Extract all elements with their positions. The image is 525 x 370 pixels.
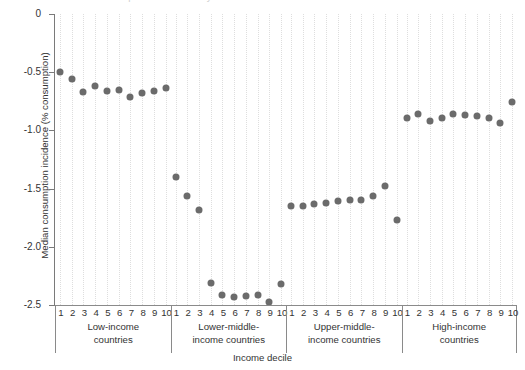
y-tick-label: -1.0 [0,124,41,135]
y-tick-mark [49,72,55,73]
gridline [477,14,479,305]
group-name-line-2: countries [56,334,171,347]
data-point [509,99,516,106]
decile-label: 3 [82,307,87,318]
gridline [176,14,178,305]
decile-label: 4 [324,307,329,318]
group-name-line-1: Lower-middle- [172,321,287,334]
data-point [462,112,469,119]
y-tick-label: 0 [0,8,41,19]
gridline [338,14,340,305]
decile-label: 2 [417,307,422,318]
decile-label: 6 [348,307,353,318]
data-point [127,93,134,100]
data-point [426,118,433,125]
y-tick-mark [49,130,55,131]
data-point [358,197,365,204]
gridline [430,14,432,305]
group-name-line-2: income countries [287,334,402,347]
y-tick-label: -2.5 [0,299,41,310]
data-point [219,291,226,298]
decile-label: 2 [186,307,191,318]
data-point [254,291,261,298]
decile-label: 8 [256,307,261,318]
decile-tick-labels: 12345678910 [56,307,171,320]
plot-area: 0-0.5-1.0-1.5-2.0-2.5 [55,14,517,305]
group-name-line-1: High-income [403,321,517,334]
data-point [299,203,306,210]
y-tick-mark [49,189,55,190]
data-point [473,113,480,120]
data-point [139,90,146,97]
decile-label: 8 [140,307,145,318]
data-point [485,114,492,121]
data-point [415,111,422,118]
group-name-line-2: income countries [172,334,287,347]
y-tick-label: -0.5 [0,66,41,77]
y-tick-mark [49,247,55,248]
gridline [385,14,387,305]
gridline [512,14,514,305]
decile-label: 6 [117,307,122,318]
gridline [397,14,399,305]
data-point [162,85,169,92]
decile-label: 4 [93,307,98,318]
decile-label: 5 [452,307,457,318]
gridline [199,14,201,305]
decile-label: 8 [487,307,492,318]
data-point [172,173,179,180]
decile-label: 1 [58,307,63,318]
gridline [281,14,283,305]
x-axis-group-3: 12345678910Upper-middle-income countries [286,305,402,353]
gridline [119,14,121,305]
decile-tick-labels: 12345678910 [287,307,402,320]
group-name-line-1: Low-income [56,321,171,334]
gridline [246,14,248,305]
decile-label: 3 [428,307,433,318]
decile-label: 7 [360,307,365,318]
data-point [370,192,377,199]
gridline [154,14,156,305]
data-point [497,120,504,127]
gridline [361,14,363,305]
gridline [258,14,260,305]
decile-tick-labels: 12345678910 [172,307,287,320]
y-tick-label: -2.0 [0,241,41,252]
gridline [303,14,305,305]
data-point [450,111,457,118]
data-point [103,87,110,94]
data-point [57,69,64,76]
gridline [72,14,74,305]
decile-label: 9 [268,307,273,318]
gridline [222,14,224,305]
gridline [60,14,62,305]
decile-label: 1 [405,307,410,318]
group-name-label: High-incomecountries [403,321,517,346]
y-tick-label: -1.5 [0,183,41,194]
decile-label: 7 [244,307,249,318]
data-point [334,198,341,205]
decile-label: 4 [440,307,445,318]
gridline [291,14,293,305]
chart-figure: Median consumption incidence by income d… [0,0,525,370]
decile-label: 5 [221,307,226,318]
gridline [83,14,85,305]
decile-label: 10 [508,307,519,318]
y-tick-mark [49,14,55,15]
group-name-label: Low-incomecountries [56,321,171,346]
cropped-chart-title: Median consumption incidence by income d… [55,0,405,3]
data-point [393,217,400,224]
decile-label: 5 [336,307,341,318]
x-axis-group-1: 12345678910Low-incomecountries [55,305,171,353]
y-axis-line [54,14,55,305]
decile-label: 9 [499,307,504,318]
data-point [115,86,122,93]
decile-label: 9 [152,307,157,318]
data-point [150,87,157,94]
gridline [211,14,213,305]
group-name-line-2: countries [403,334,517,347]
decile-label: 7 [475,307,480,318]
gridline [166,14,168,305]
data-point [278,281,285,288]
decile-label: 8 [371,307,376,318]
